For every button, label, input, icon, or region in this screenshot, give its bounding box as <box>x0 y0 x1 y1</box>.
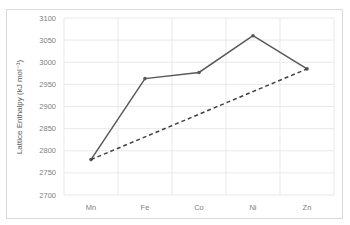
data-line <box>91 36 307 160</box>
y-tick-label: 2950 <box>39 80 56 89</box>
data-point-marker <box>251 34 255 38</box>
y-tick-label: 3050 <box>39 36 56 45</box>
data-point-marker <box>197 71 201 75</box>
x-axis-ticks: MnFeCoNiZn <box>86 203 312 212</box>
y-axis-ticks: 310030503000295029002850280027502700 <box>39 14 56 200</box>
x-tick-label: Co <box>194 203 204 212</box>
y-tick-label: 2850 <box>39 124 56 133</box>
data-series <box>89 34 309 162</box>
x-tick-label: Fe <box>141 203 150 212</box>
dashed-trend-line <box>91 69 307 160</box>
x-tick-label: Ni <box>249 203 256 212</box>
y-tick-label: 2750 <box>39 168 56 177</box>
y-tick-label: 2800 <box>39 146 56 155</box>
x-tick-label: Mn <box>86 203 96 212</box>
gridlines <box>64 18 334 195</box>
x-tick-label: Zn <box>303 203 312 212</box>
y-axis-label: Lattice Enthalpy (kJ mol⁻¹) <box>15 60 24 155</box>
y-tick-label: 3000 <box>39 58 56 67</box>
y-tick-label: 2900 <box>39 102 56 111</box>
y-tick-label: 2700 <box>39 191 56 200</box>
data-point-marker <box>143 77 147 81</box>
y-tick-label: 3100 <box>39 14 56 23</box>
line-chart: 310030503000295029002850280027502700 MnF… <box>0 0 350 225</box>
